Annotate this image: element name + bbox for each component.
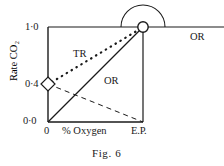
series-label-tr: TR [73,49,86,60]
y-tick-label-1-0: 1·0 [25,22,38,33]
x-tick-label-ep: E.P. [131,126,147,137]
diamond-marker [41,77,55,91]
circle-marker [138,22,148,32]
series-label-or-right: OR [190,32,205,43]
series-label-or-middle: OR [104,76,119,87]
y-tick-label-0-4: 0·4 [25,79,38,90]
x-axis-title: % Oxygen [62,126,107,137]
y-tick-label-0-0: 0·0 [23,116,36,127]
figure-6-chart: Rate CO₂ 1·0 0·4 0·0 0 % Oxygen E.P. TR … [0,0,224,166]
y-axis-title-wrapper: Rate CO₂ [3,29,21,93]
dashed-descending-line [48,84,143,122]
or-diagonal-line [48,27,143,122]
x-tick-label-zero: 0 [44,126,49,137]
figure-caption: Fig. 6 [92,148,121,159]
y-axis-title: Rate CO₂ [8,41,19,81]
